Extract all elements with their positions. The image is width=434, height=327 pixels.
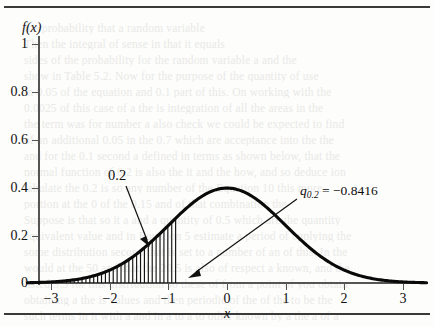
quantile-annotation-label: q0.2 = −0.8416	[300, 183, 378, 199]
area-annotation-label: 0.2	[108, 167, 126, 184]
normal-distribution-plot: 1 0.8 0.6 0.4 0.2 0 −3 −2 −1 0 1 2 3 f(x…	[0, 0, 434, 327]
quantile-subscript: 0.2	[307, 190, 319, 200]
normal-pdf-curve	[27, 188, 426, 283]
quantile-leader-arrow	[188, 199, 297, 278]
area-label-leader-arrow	[126, 186, 150, 247]
curve-and-shading	[0, 0, 434, 327]
figure-page: the probability that a random variable T…	[0, 0, 434, 327]
quantile-value: = −0.8416	[322, 183, 378, 198]
quantile-symbol: q	[300, 183, 307, 198]
